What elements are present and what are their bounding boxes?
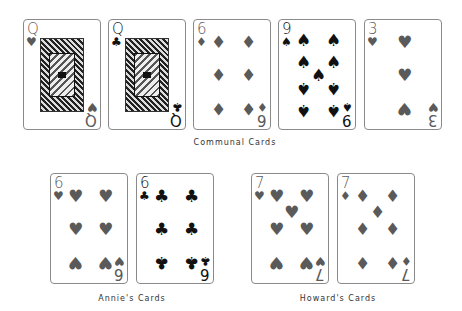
- clubs-pip-icon: ♣: [153, 221, 170, 238]
- card-rank-inverted: 7: [401, 266, 411, 282]
- spades-pip-icon: ♠: [325, 80, 342, 97]
- hearts-icon: ♥: [367, 36, 378, 48]
- card-rank-inverted: 6: [257, 112, 267, 128]
- card-rank-inverted: 6: [114, 266, 124, 282]
- clubs-icon: ♣: [111, 36, 122, 48]
- hearts-icon: ♥: [315, 255, 326, 267]
- hearts-pip-icon: ♥: [396, 67, 413, 84]
- spades-icon: ♠: [342, 101, 353, 113]
- card-rank-inverted: Q: [85, 112, 97, 128]
- queen-face-artwork: [125, 38, 169, 112]
- hearts-pip-icon: ♥: [268, 254, 285, 271]
- hearts-icon: ♥: [254, 190, 265, 202]
- spades-pip-icon: ♠: [325, 102, 342, 119]
- card-6-of-diamonds: 6♦6♦♦♦♦♦♦♦: [193, 19, 271, 130]
- diamonds-pip-icon: ♦: [240, 100, 257, 117]
- spades-pip-icon: ♠: [295, 102, 312, 119]
- card-6-of-hearts: 6♥6♥♥♥♥♥♥♥: [50, 173, 128, 284]
- card-7-of-hearts: 7♥7♥♥♥♥♥♥♥♥: [251, 173, 329, 284]
- diamonds-pip-icon: ♦: [384, 221, 401, 238]
- hearts-pip-icon: ♥: [67, 221, 84, 238]
- diamonds-pip-icon: ♦: [369, 204, 386, 221]
- diamonds-pip-icon: ♦: [240, 34, 257, 51]
- card-rank-inverted: Q: [170, 112, 182, 128]
- card-rank-inverted: 3: [428, 112, 438, 128]
- clubs-pip-icon: ♣: [183, 221, 200, 238]
- diamonds-pip-icon: ♦: [210, 100, 227, 117]
- clubs-icon: ♣: [200, 255, 211, 267]
- hearts-pip-icon: ♥: [298, 188, 315, 205]
- diamonds-pip-icon: ♦: [354, 188, 371, 205]
- hearts-pip-icon: ♥: [268, 188, 285, 205]
- spades-icon: ♠: [281, 36, 292, 48]
- diamonds-icon: ♦: [401, 255, 412, 267]
- card-rank-inverted: 6: [200, 266, 210, 282]
- hearts-pip-icon: ♥: [298, 254, 315, 271]
- hearts-pip-icon: ♥: [268, 221, 285, 238]
- diamonds-pip-icon: ♦: [384, 254, 401, 271]
- diamonds-pip-icon: ♦: [240, 67, 257, 84]
- spades-pip-icon: ♠: [295, 80, 312, 97]
- communal-cards-caption: Communal Cards: [180, 138, 290, 147]
- hearts-pip-icon: ♥: [283, 204, 300, 221]
- hearts-icon: ♥: [428, 101, 439, 113]
- card-q-of-hearts: Q♥Q♥: [23, 19, 101, 130]
- diamonds-pip-icon: ♦: [210, 67, 227, 84]
- diamonds-pip-icon: ♦: [354, 254, 371, 271]
- spades-pip-icon: ♠: [325, 54, 342, 71]
- queen-face-artwork: [40, 38, 84, 112]
- diamonds-pip-icon: ♦: [210, 34, 227, 51]
- diamonds-icon: ♦: [340, 190, 351, 202]
- hearts-pip-icon: ♥: [298, 221, 315, 238]
- annies-cards-caption: Annie's Cards: [82, 294, 182, 303]
- diamonds-icon: ♦: [196, 36, 207, 48]
- clubs-icon: ♣: [172, 101, 183, 113]
- card-6-of-clubs: 6♣6♣♣♣♣♣♣♣: [136, 173, 214, 284]
- card-q-of-clubs: Q♣Q♣: [108, 19, 186, 130]
- clubs-pip-icon: ♣: [183, 188, 200, 205]
- card-7-of-diamonds: 7♦7♦♦♦♦♦♦♦♦: [337, 173, 415, 284]
- clubs-pip-icon: ♣: [153, 188, 170, 205]
- diamonds-pip-icon: ♦: [384, 188, 401, 205]
- hearts-pip-icon: ♥: [97, 254, 114, 271]
- hearts-pip-icon: ♥: [67, 188, 84, 205]
- hearts-pip-icon: ♥: [396, 34, 413, 51]
- clubs-pip-icon: ♣: [153, 254, 170, 271]
- hearts-pip-icon: ♥: [97, 221, 114, 238]
- hearts-icon: ♥: [87, 101, 98, 113]
- card-rank-inverted: 7: [315, 266, 325, 282]
- card-rank-inverted: 9: [342, 112, 352, 128]
- hearts-pip-icon: ♥: [67, 254, 84, 271]
- card-9-of-spades: 9♠9♠♠♠♠♠♠♠♠♠♠: [278, 19, 356, 130]
- hearts-pip-icon: ♥: [396, 100, 413, 117]
- clubs-icon: ♣: [139, 190, 150, 202]
- card-3-of-hearts: 3♥3♥♥♥♥: [364, 19, 442, 130]
- spades-pip-icon: ♠: [325, 32, 342, 49]
- hearts-icon: ♥: [26, 36, 37, 48]
- diamonds-pip-icon: ♦: [354, 221, 371, 238]
- howards-cards-caption: Howard's Cards: [283, 294, 393, 303]
- spades-pip-icon: ♠: [295, 32, 312, 49]
- clubs-pip-icon: ♣: [183, 254, 200, 271]
- hearts-pip-icon: ♥: [97, 188, 114, 205]
- hearts-icon: ♥: [114, 255, 125, 267]
- diamonds-icon: ♦: [257, 101, 268, 113]
- hearts-icon: ♥: [53, 190, 64, 202]
